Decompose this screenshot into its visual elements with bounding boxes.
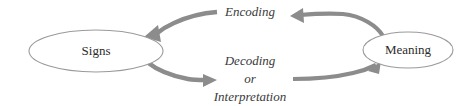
semiotics-cycle-diagram: Signs Meaning Encoding Decoding or Inter… [0,0,475,106]
diagram-canvas: Signs Meaning Encoding Decoding or Inter… [0,0,475,106]
signs-label: Signs [82,43,111,58]
encoding-label: Encoding [224,4,275,19]
decoding-label: Decoding [224,53,276,68]
interpretation-label: Interpretation [213,89,286,104]
node-meaning[interactable]: Meaning [363,32,453,68]
edge-encoding-left-segment [144,12,217,42]
edge-decoding-right-segment [293,61,381,79]
meaning-label: Meaning [385,42,432,57]
node-signs[interactable]: Signs [29,30,163,72]
edge-encoding-right-segment [290,8,383,36]
arrowhead-decoding-right [203,74,217,87]
edge-decoding-left-segment [147,62,217,87]
arrowhead-encoding-left [290,8,304,23]
decoding-or-label: or [244,71,257,86]
